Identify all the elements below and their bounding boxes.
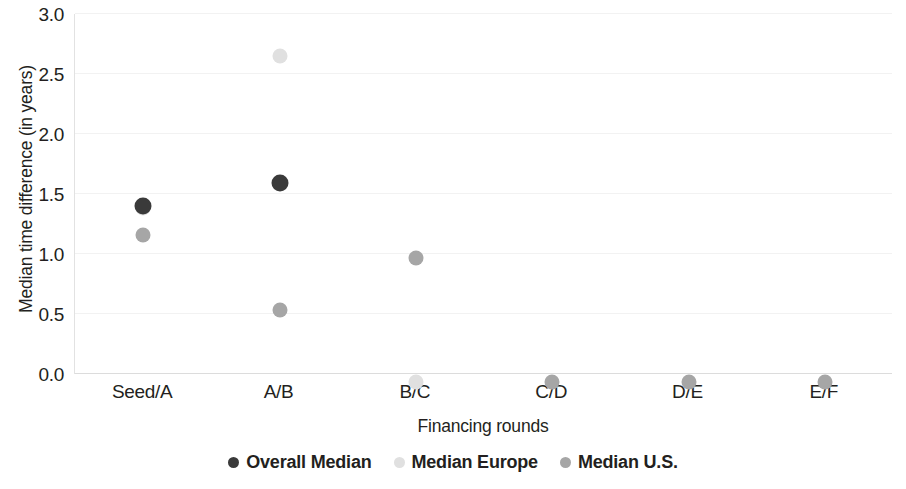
data-point (135, 198, 152, 215)
y-tick-label: 2.5 (20, 65, 64, 84)
gridline (75, 13, 892, 14)
x-axis-title: Financing rounds (74, 416, 892, 437)
data-point (136, 228, 151, 243)
chart-legend: Overall MedianMedian EuropeMedian U.S. (0, 452, 906, 473)
data-point (408, 250, 423, 265)
y-tick-label: 0.5 (20, 305, 64, 324)
gridline (75, 73, 892, 74)
legend-label: Median U.S. (578, 452, 678, 473)
data-point (545, 374, 560, 389)
plot-area (74, 14, 892, 374)
y-tick-label: 1.5 (20, 185, 64, 204)
data-point (681, 374, 696, 389)
gridline (75, 313, 892, 314)
gridline (75, 133, 892, 134)
legend-marker-icon (394, 457, 405, 468)
scatter-chart: Median time difference (in years) 0.00.5… (0, 0, 906, 489)
data-point (817, 374, 832, 389)
data-point (272, 302, 287, 317)
legend-item[interactable]: Median Europe (394, 452, 538, 473)
x-tick-label: Seed/A (112, 382, 173, 401)
gridline (75, 253, 892, 254)
legend-marker-icon (560, 457, 571, 468)
legend-item[interactable]: Median U.S. (560, 452, 678, 473)
y-axis-tick-labels: 0.00.51.01.52.02.53.0 (18, 0, 64, 489)
x-tick-label: A/B (264, 382, 294, 401)
legend-label: Median Europe (412, 452, 538, 473)
y-tick-label: 1.0 (20, 245, 64, 264)
data-point (408, 374, 423, 389)
legend-marker-icon (228, 457, 239, 468)
legend-label: Overall Median (246, 452, 371, 473)
data-point (272, 49, 287, 64)
legend-item[interactable]: Overall Median (228, 452, 371, 473)
x-axis-baseline (75, 373, 892, 374)
data-point (271, 175, 288, 192)
gridline (75, 193, 892, 194)
x-axis-tick-labels: Seed/AA/BB/CC/DD/EE/F (74, 382, 892, 408)
y-tick-label: 3.0 (20, 5, 64, 24)
y-tick-label: 0.0 (20, 365, 64, 384)
y-tick-label: 2.0 (20, 125, 64, 144)
